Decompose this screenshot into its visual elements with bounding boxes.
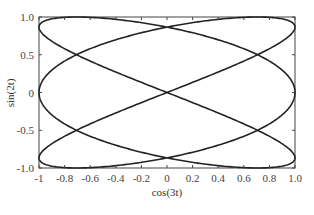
x-tick-label: 0.2 [186, 172, 200, 184]
x-tick-label: -1 [34, 172, 43, 184]
x-tick-label: 0.4 [211, 172, 225, 184]
y-tick-label: 1.0 [20, 11, 34, 23]
x-tick-label: 0.8 [263, 172, 277, 184]
x-tick-label: -0.8 [56, 172, 74, 184]
y-tick-label: 0 [29, 87, 35, 99]
x-tick-label: 0.6 [237, 172, 251, 184]
y-tick-label: -1.0 [17, 162, 35, 174]
x-tick-label: -0.4 [107, 172, 125, 184]
x-tick-label: 1.0 [288, 172, 302, 184]
x-tick-label: -0.6 [81, 172, 99, 184]
y-axis-label: sin(2t) [4, 78, 17, 107]
y-tick-label: 0.5 [20, 49, 34, 61]
x-axis-label: cos(3t) [152, 186, 183, 199]
y-tick-label: -0.5 [17, 124, 35, 136]
lissajous-curve [39, 17, 295, 168]
x-tick-label: 0 [164, 172, 170, 184]
lissajous-chart: -1-0.8-0.6-0.4-0.200.20.40.60.81.0 -1.0-… [0, 0, 314, 215]
x-tick-label: -0.2 [133, 172, 150, 184]
y-axis-ticks: -1.0-0.500.51.0 [17, 11, 295, 174]
